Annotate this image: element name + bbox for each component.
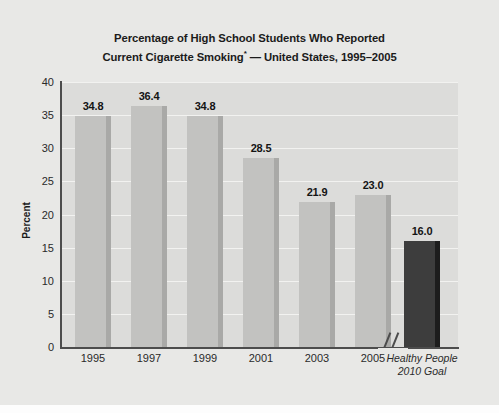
bar-side — [274, 158, 279, 347]
bar-value-label: 34.8 — [61, 100, 125, 112]
y-axis-tick-label: 10 — [20, 275, 54, 287]
bar-value-label: 34.8 — [173, 100, 237, 112]
x-axis-tick-label-line-2: 2010 Goal — [377, 365, 467, 378]
figure-bottom-strip — [0, 405, 499, 413]
bar-side — [330, 202, 335, 347]
bar-face — [243, 158, 274, 347]
y-axis-line — [60, 81, 62, 348]
chart-title-line-1: Percentage of High School Students Who R… — [0, 30, 499, 46]
bar-side — [106, 116, 111, 347]
bar-face — [404, 241, 435, 347]
y-axis-tick-label: 35 — [20, 109, 54, 121]
plot-area: 34.836.434.828.521.923.016.0 — [61, 82, 458, 347]
chart-title: Percentage of High School Students Who R… — [0, 30, 499, 65]
bar-value-label: 28.5 — [229, 142, 293, 154]
x-axis-tick-label-line-1: Healthy People — [377, 352, 467, 365]
gridline — [61, 115, 458, 116]
bar-face — [187, 116, 218, 347]
bar-value-label: 21.9 — [285, 186, 349, 198]
y-axis-tick-label: 5 — [20, 308, 54, 320]
y-axis-tick-label: 40 — [20, 76, 54, 88]
bar-side — [218, 116, 223, 347]
y-axis-tick-label: 20 — [20, 209, 54, 221]
y-axis-tick-label: 25 — [20, 175, 54, 187]
bar: 28.5 — [243, 158, 279, 347]
chart-title-line-2-text: Current Cigarette Smoking — [102, 51, 243, 63]
bar: 23.0 — [355, 195, 391, 347]
bar-face — [355, 195, 386, 347]
bar: 16.0 — [404, 241, 440, 347]
y-axis-tick-label: 15 — [20, 242, 54, 254]
bar-side — [386, 195, 391, 347]
bar-side — [162, 106, 167, 347]
bar-value-label: 16.0 — [390, 225, 454, 237]
bar-face — [75, 116, 106, 347]
bar: 36.4 — [131, 106, 167, 347]
chart-title-line-2-suffix: — United States, 1995–2005 — [247, 51, 397, 63]
bar-value-label: 36.4 — [117, 90, 181, 102]
axis-break-icon — [380, 332, 406, 350]
bar-face — [299, 202, 330, 347]
bar: 34.8 — [75, 116, 111, 347]
bar-face — [131, 106, 162, 347]
bar: 34.8 — [187, 116, 223, 347]
y-axis-tick-label: 30 — [20, 142, 54, 154]
chart-title-line-2: Current Cigarette Smoking* — United Stat… — [0, 46, 499, 65]
gridline — [61, 82, 458, 83]
x-axis-tick-label: Healthy People2010 Goal — [377, 352, 467, 378]
chart-figure: Percentage of High School Students Who R… — [0, 0, 499, 413]
bar-side — [435, 241, 440, 347]
bar: 21.9 — [299, 202, 335, 347]
bar-value-label: 23.0 — [341, 179, 405, 191]
